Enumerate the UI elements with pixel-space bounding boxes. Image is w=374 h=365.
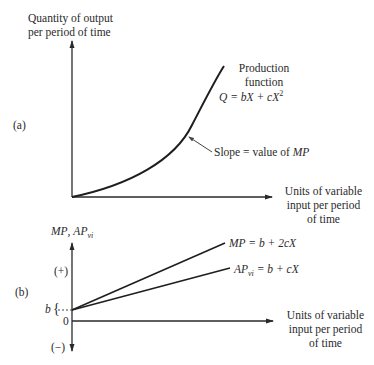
- ap-label-ap: AP: [234, 263, 248, 275]
- mp-label-eq: = b + 2cX: [245, 237, 296, 249]
- minus-label: (−): [51, 340, 65, 354]
- production-function-curve: [72, 66, 224, 197]
- panel-a-x-label-line1: Units of variable: [276, 184, 371, 198]
- y-label-ap: AP: [73, 225, 87, 237]
- y-label-mp: MP: [51, 225, 68, 237]
- panel-a-label: (a): [13, 118, 26, 132]
- panel-a-x-axis-label: Units of variable input per period of ti…: [276, 184, 371, 226]
- panel-b-x-label-line1: Units of variable: [278, 308, 373, 322]
- mp-label-mp: MP: [229, 237, 245, 249]
- panel-b-x-label-line2: input per period: [278, 322, 373, 336]
- ap-line-label: APvi = b + cX: [234, 262, 299, 276]
- panel-a-x-label-line3: of time: [276, 212, 371, 226]
- panel-b-y-axis-label: MP, APvi: [51, 224, 93, 238]
- panel-b-x-label-line3: of time: [278, 336, 373, 350]
- panel-a-y-axis-label: Quantity of output per period of time: [28, 11, 113, 39]
- panel-a-y-label-line2: per period of time: [28, 25, 113, 39]
- y-label-sub: vi: [87, 231, 93, 240]
- panel-a-x-label-line2: input per period: [276, 198, 371, 212]
- slope-note: Slope = value of MP: [214, 145, 309, 159]
- slope-note-mp: MP: [293, 146, 310, 158]
- production-function-equation: Q = bX + cX2: [219, 90, 283, 104]
- zero-label: 0: [63, 314, 69, 328]
- curve-label-line1: Production: [224, 61, 304, 75]
- panel-b-label: (b): [15, 285, 28, 299]
- panel-b-x-axis-label: Units of variable input per period of ti…: [278, 308, 373, 350]
- curve-label-line2: function: [224, 75, 304, 89]
- plus-label: (+): [54, 264, 68, 278]
- ap-label-eq: = b + cX: [254, 263, 299, 275]
- mp-line-label: MP = b + 2cX: [229, 236, 296, 250]
- panel-a-y-label-line1: Quantity of output: [28, 11, 113, 25]
- mp-line: [72, 243, 225, 310]
- ap-line: [72, 268, 230, 310]
- eq-exp: 2: [279, 89, 283, 98]
- b-label: b: [45, 302, 51, 316]
- slope-note-text: Slope = value of: [214, 146, 293, 158]
- slope-leader-arrow: [189, 137, 212, 152]
- eq-mid: = bX + cX: [227, 91, 279, 103]
- b-brace: {: [53, 302, 60, 316]
- production-function-label: Production function: [224, 61, 304, 89]
